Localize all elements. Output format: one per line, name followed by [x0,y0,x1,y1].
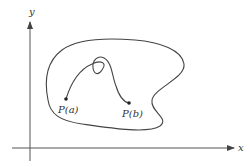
diagram-canvas: y x P(a) P(b) [0,0,250,167]
point-b-dot [127,101,131,105]
x-axis: x [12,142,244,153]
point-a-label: P(a) [57,104,79,115]
point-b-label: P(b) [121,108,143,119]
point-a-dot [64,97,68,101]
y-axis-label: y [28,6,35,17]
parametric-curve [66,57,129,103]
y-axis: y [28,6,35,161]
x-axis-label: x [238,142,244,153]
